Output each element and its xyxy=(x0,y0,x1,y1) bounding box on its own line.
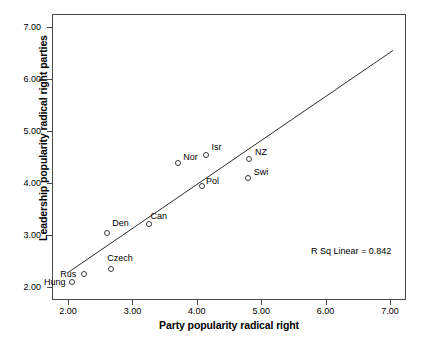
x-tick-label: 4.00 xyxy=(177,306,217,316)
y-tick-label: 2.00 xyxy=(7,282,41,292)
x-axis-title: Party popularity radical right xyxy=(52,319,406,331)
y-tick-label: 3.00 xyxy=(7,230,41,240)
x-tick-label: 3.00 xyxy=(112,306,152,316)
y-tick-label: 7.00 xyxy=(7,22,41,32)
x-tick-mark xyxy=(326,300,327,305)
x-tick-mark xyxy=(390,300,391,305)
y-tick-label: 4.00 xyxy=(7,178,41,188)
x-tick-mark xyxy=(68,300,69,305)
r-squared-annotation: R Sq Linear = 0.842 xyxy=(311,246,391,256)
y-tick-label: 5.00 xyxy=(7,126,41,136)
x-tick-label: 2.00 xyxy=(48,306,88,316)
y-tick-label: 6.00 xyxy=(7,74,41,84)
x-tick-mark xyxy=(261,300,262,305)
scatter-plot-page: Leadership popularity radical right part… xyxy=(0,0,421,340)
x-tick-label: 5.00 xyxy=(241,306,281,316)
x-tick-label: 7.00 xyxy=(370,306,410,316)
plot-area xyxy=(52,14,406,300)
x-tick-label: 6.00 xyxy=(306,306,346,316)
x-tick-mark xyxy=(132,300,133,305)
y-axis-tick-labels: 2.003.004.005.006.007.00 xyxy=(0,0,52,340)
x-axis-tick-labels: 2.003.004.005.006.007.00 xyxy=(0,306,421,320)
x-tick-mark xyxy=(197,300,198,305)
